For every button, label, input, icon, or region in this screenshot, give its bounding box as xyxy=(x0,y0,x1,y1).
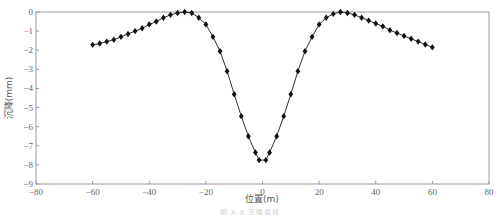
diamond-marker xyxy=(189,10,194,16)
y-tick-label: 0 xyxy=(29,7,34,17)
diamond-marker xyxy=(253,149,258,155)
diamond-marker xyxy=(423,41,428,47)
diamond-marker xyxy=(263,157,268,163)
diamond-marker xyxy=(133,28,138,34)
x-tick-label: 40 xyxy=(371,187,381,197)
diamond-marker xyxy=(232,91,237,97)
diamond-marker xyxy=(267,149,272,155)
diamond-marker xyxy=(373,20,378,26)
diamond-marker xyxy=(246,133,251,139)
diamond-marker xyxy=(154,18,159,24)
y-tick-label: −7 xyxy=(23,141,33,151)
figure-caption: 图 X-X 沉降曲线 xyxy=(150,207,350,215)
diamond-marker xyxy=(388,27,393,33)
diamond-marker xyxy=(395,30,400,36)
diamond-marker xyxy=(111,37,116,43)
plot-frame xyxy=(36,12,489,184)
diamond-marker xyxy=(182,9,187,15)
line-chart: −80−60−40−200204060800−1−2−3−4−5−6−7−8−9… xyxy=(0,0,499,205)
diamond-marker xyxy=(366,17,371,23)
diamond-marker xyxy=(90,42,95,48)
x-tick-label: −40 xyxy=(142,187,157,197)
diamond-marker xyxy=(380,23,385,29)
diamond-marker xyxy=(409,36,414,42)
diamond-marker xyxy=(140,25,145,31)
x-tick-label: −20 xyxy=(199,187,214,197)
diamond-marker xyxy=(345,10,350,16)
diamond-marker xyxy=(430,44,435,50)
x-tick-label: 60 xyxy=(428,187,438,197)
x-tick-label: 80 xyxy=(485,187,495,197)
diamond-marker xyxy=(281,113,286,119)
diamond-marker xyxy=(225,68,230,74)
y-tick-label: −4 xyxy=(23,83,33,93)
diamond-marker xyxy=(147,21,152,27)
diamond-marker xyxy=(338,9,343,15)
diamond-marker xyxy=(119,34,124,40)
diamond-marker xyxy=(288,91,293,97)
diamond-marker xyxy=(402,33,407,39)
y-tick-label: −1 xyxy=(23,26,33,36)
y-tick-label: −8 xyxy=(23,160,33,170)
data-markers xyxy=(90,9,435,164)
diamond-marker xyxy=(274,133,279,139)
y-tick-label: −2 xyxy=(23,45,33,55)
diamond-marker xyxy=(257,157,262,163)
diamond-marker xyxy=(303,48,308,54)
diamond-marker xyxy=(161,15,166,21)
diamond-marker xyxy=(218,48,223,54)
diamond-marker xyxy=(97,40,102,46)
y-tick-label: −9 xyxy=(23,179,33,189)
x-tick-label: −60 xyxy=(86,187,101,197)
axis-ticks: −80−60−40−200204060800−1−2−3−4−5−6−7−8−9 xyxy=(23,7,494,197)
diamond-marker xyxy=(104,38,109,44)
data-line xyxy=(93,12,433,160)
y-axis-label: 沉降(mm) xyxy=(3,77,14,120)
y-tick-label: −5 xyxy=(23,103,33,113)
x-axis-label: 位置(m) xyxy=(245,193,279,204)
diamond-marker xyxy=(295,68,300,74)
diamond-marker xyxy=(168,12,173,18)
diamond-marker xyxy=(175,10,180,16)
diamond-marker xyxy=(126,31,131,37)
y-tick-label: −6 xyxy=(23,122,33,132)
diamond-marker xyxy=(239,113,244,119)
y-tick-label: −3 xyxy=(23,64,33,74)
x-tick-label: 20 xyxy=(315,187,325,197)
diamond-marker xyxy=(359,15,364,21)
diamond-marker xyxy=(416,38,421,44)
diamond-marker xyxy=(352,12,357,18)
